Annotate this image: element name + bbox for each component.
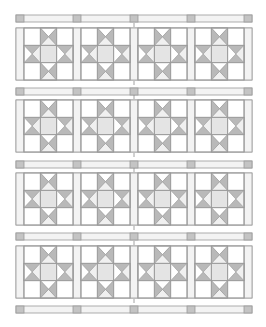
cornerstone	[73, 233, 81, 240]
cornerstone	[244, 88, 252, 95]
quilt-diagram	[0, 0, 266, 327]
vertical-sashing	[16, 173, 24, 225]
vertical-sashing	[244, 100, 252, 152]
cornerstone	[244, 161, 252, 168]
star-block	[81, 246, 130, 298]
block-row	[16, 173, 252, 225]
vertical-sashing	[16, 100, 24, 152]
cornerstone	[130, 88, 138, 95]
horizontal-sashing-row	[16, 306, 252, 313]
cornerstone	[16, 233, 24, 240]
vertical-sashing	[187, 173, 195, 225]
cornerstone	[187, 161, 195, 168]
star-block	[195, 246, 244, 298]
cornerstone	[244, 233, 252, 240]
vertical-sashing	[16, 246, 24, 298]
star-center-square	[40, 117, 56, 134]
horizontal-sashing-row	[16, 15, 252, 22]
vertical-sashing	[244, 173, 252, 225]
cornerstone	[16, 88, 24, 95]
vertical-sashing	[130, 173, 138, 225]
star-block	[24, 173, 73, 225]
star-center-square	[97, 117, 113, 134]
star-center-square	[211, 45, 227, 62]
vertical-sashing	[130, 246, 138, 298]
star-block	[195, 100, 244, 152]
vertical-sashing	[187, 28, 195, 80]
cornerstone	[16, 161, 24, 168]
star-center-square	[211, 117, 227, 134]
cornerstone	[73, 15, 81, 22]
star-block	[138, 28, 187, 80]
star-block	[81, 28, 130, 80]
star-block	[81, 173, 130, 225]
vertical-sashing	[16, 28, 24, 80]
block-row	[16, 246, 252, 298]
vertical-sashing	[187, 246, 195, 298]
star-block	[195, 28, 244, 80]
star-block	[138, 173, 187, 225]
cornerstone	[130, 306, 138, 313]
block-row	[16, 28, 252, 80]
vertical-sashing	[187, 100, 195, 152]
cornerstone	[73, 88, 81, 95]
cornerstone	[130, 15, 138, 22]
cornerstone	[130, 233, 138, 240]
star-block	[195, 173, 244, 225]
cornerstone	[187, 88, 195, 95]
star-center-square	[154, 117, 170, 134]
star-block	[138, 100, 187, 152]
cornerstone	[73, 161, 81, 168]
vertical-sashing	[130, 28, 138, 80]
vertical-sashing	[244, 28, 252, 80]
star-center-square	[97, 263, 113, 280]
star-center-square	[211, 263, 227, 280]
cornerstone	[187, 233, 195, 240]
cornerstone	[187, 15, 195, 22]
cornerstone	[244, 15, 252, 22]
vertical-sashing	[130, 100, 138, 152]
horizontal-sashing-row	[16, 161, 252, 168]
vertical-sashing	[73, 173, 81, 225]
star-center-square	[211, 190, 227, 207]
star-center-square	[154, 263, 170, 280]
star-block	[138, 246, 187, 298]
cornerstone	[16, 15, 24, 22]
cornerstone	[187, 306, 195, 313]
horizontal-sashing-row	[16, 233, 252, 240]
star-center-square	[154, 45, 170, 62]
star-center-square	[97, 190, 113, 207]
star-center-square	[40, 190, 56, 207]
star-center-square	[40, 263, 56, 280]
cornerstone	[244, 306, 252, 313]
star-center-square	[97, 45, 113, 62]
block-row	[16, 100, 252, 152]
cornerstone	[73, 306, 81, 313]
vertical-sashing	[244, 246, 252, 298]
star-block	[24, 100, 73, 152]
star-center-square	[154, 190, 170, 207]
cornerstone	[16, 306, 24, 313]
vertical-sashing	[73, 246, 81, 298]
vertical-sashing	[73, 100, 81, 152]
star-block	[81, 100, 130, 152]
horizontal-sashing-row	[16, 88, 252, 95]
star-block	[24, 246, 73, 298]
star-block	[24, 28, 73, 80]
cornerstone	[130, 161, 138, 168]
star-center-square	[40, 45, 56, 62]
vertical-sashing	[73, 28, 81, 80]
